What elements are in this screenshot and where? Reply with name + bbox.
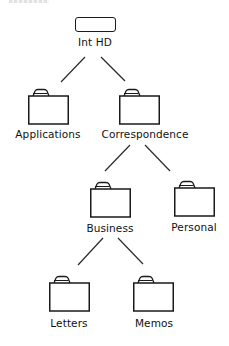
- folder-icon: [28, 88, 68, 124]
- connector-inthd-correspondence: [101, 57, 125, 81]
- tree-connectors: [0, 0, 229, 346]
- folder-icon: [119, 88, 159, 124]
- folder-icon: [90, 181, 130, 217]
- node-label: Memos: [135, 317, 173, 329]
- folder-icon: [174, 180, 214, 216]
- connector-correspondence-personal: [145, 145, 170, 171]
- connector-business-letters: [78, 238, 103, 265]
- node-label: Int HD: [78, 36, 112, 48]
- node-label: Applications: [15, 128, 80, 140]
- folder-icon: [133, 275, 173, 311]
- node-label: Correspondence: [101, 128, 188, 140]
- node-label: Business: [86, 222, 133, 234]
- node-label: Personal: [171, 221, 216, 233]
- connector-inthd-applications: [61, 57, 85, 82]
- connector-business-memos: [118, 238, 143, 264]
- node-label: Letters: [50, 317, 87, 329]
- folder-icon: [49, 275, 89, 311]
- connector-correspondence-business: [105, 145, 130, 171]
- folder-tree-diagram: Int HD Applications Correspondence: [0, 0, 229, 346]
- hard-drive-icon: [75, 17, 116, 32]
